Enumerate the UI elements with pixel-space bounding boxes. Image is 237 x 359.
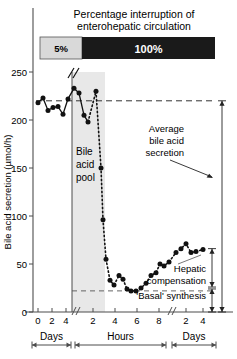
bile-acid-pool-label-2: acid — [76, 159, 94, 170]
bile-acid-pool-region — [72, 72, 105, 312]
y-tick-label-150: 150 — [11, 163, 27, 174]
x-group-hours-bracket-arrow — [75, 342, 80, 347]
data-point-8 — [77, 91, 82, 96]
x-tick-label-days2-4: 4 — [200, 315, 205, 326]
data-point-1 — [41, 95, 46, 100]
data-point-33 — [194, 249, 199, 254]
data-point-2 — [46, 108, 51, 113]
data-point-7 — [72, 86, 77, 91]
axis-break-mark — [168, 307, 172, 315]
data-point-9 — [82, 113, 87, 118]
y-tick-label-50: 50 — [16, 259, 27, 270]
bile-acid-pool-label-3: pool — [76, 172, 95, 183]
x-tick-label-hours-2: 2 — [90, 315, 95, 326]
data-point-30 — [179, 246, 184, 251]
x-tick-label-days1-0: 0 — [35, 315, 40, 326]
data-point-4 — [56, 104, 61, 109]
data-point-28 — [167, 260, 172, 265]
data-point-3 — [51, 105, 56, 110]
data-point-13 — [101, 217, 106, 222]
data-point-29 — [174, 250, 179, 255]
average-secretion-span-arrow-top — [219, 101, 224, 106]
chart-title-line2: enterohepatic circulation — [77, 20, 191, 32]
x-group-days2-bracket-arrow — [172, 342, 177, 347]
x-tick-label-hours-8: 8 — [156, 315, 161, 326]
x-group-days1-label: Days — [40, 331, 63, 342]
data-point-34 — [201, 247, 206, 252]
x-group-days1-bracket-arrow — [32, 342, 37, 347]
bar-label-5-percent: 5% — [54, 43, 68, 54]
x-tick-label-days1-2: 2 — [49, 315, 54, 326]
y-tick-label-100: 100 — [11, 211, 27, 222]
basal-synthesis-span-arrow-bottom — [209, 307, 214, 312]
x-group-days2-label: Days — [183, 331, 206, 342]
x-group-hours-label: Hours — [107, 331, 134, 342]
basal-synthesis-span-arrow-top — [209, 289, 214, 294]
axis-break-mark — [172, 307, 176, 315]
data-point-20 — [129, 288, 134, 293]
data-point-16 — [112, 283, 117, 288]
bar-label-100-percent: 100% — [134, 43, 162, 55]
x-tick-label-hours-6: 6 — [134, 315, 139, 326]
data-point-17 — [117, 273, 122, 278]
y-tick-label-200: 200 — [11, 115, 27, 126]
hepatic-compensation-span-arrow-top — [209, 249, 214, 254]
basal-synthesis-label: 'Basal' synthesis — [136, 290, 206, 301]
x-group-days1-bracket-arrow — [67, 342, 72, 347]
y-tick-label-0: 0 — [22, 307, 27, 318]
data-point-18 — [121, 277, 126, 282]
data-point-11 — [94, 89, 99, 94]
average-secretion-leader-arrow — [207, 174, 213, 178]
x-group-days2-bracket-arrow — [212, 342, 217, 347]
data-point-15 — [108, 278, 113, 283]
bile-acid-pool-label-1: Bile — [76, 146, 93, 157]
bile-acid-secretion-chart: Percentage interruption ofenterohepatic … — [0, 0, 237, 359]
chart-canvas: Percentage interruption ofenterohepatic … — [0, 0, 237, 359]
chart-title-line1: Percentage interruption of — [74, 8, 195, 20]
y-tick-label-250: 250 — [11, 67, 27, 78]
data-point-5 — [61, 112, 66, 117]
x-tick-label-days1-4: 4 — [63, 315, 68, 326]
data-point-6 — [66, 96, 71, 101]
average-secretion-label-3: secretion — [145, 147, 184, 158]
data-point-12 — [99, 166, 104, 171]
data-point-14 — [104, 257, 109, 262]
x-group-hours-bracket-arrow — [162, 342, 167, 347]
x-tick-label-days2-2: 2 — [183, 315, 188, 326]
data-point-31 — [184, 241, 189, 246]
data-point-32 — [189, 250, 194, 255]
average-secretion-label-1: Average — [149, 123, 184, 134]
data-point-0 — [36, 100, 41, 105]
x-tick-label-hours-4: 4 — [112, 315, 117, 326]
data-point-10 — [86, 119, 91, 124]
data-point-27 — [162, 263, 167, 268]
average-secretion-span-arrow-bottom — [219, 307, 224, 312]
hepatic-compensation-label-1: Hepatic — [174, 263, 206, 274]
y-axis-title: Bile acid secretion (µmol/h) — [2, 135, 13, 250]
average-secretion-leader — [170, 160, 212, 177]
hepatic-compensation-span-arrow-bottom — [209, 282, 214, 287]
hepatic-compensation-label-2: compensation — [147, 275, 206, 286]
average-secretion-label-2: bile acid — [149, 135, 184, 146]
